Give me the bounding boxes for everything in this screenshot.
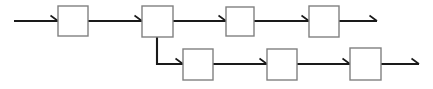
node-shape[interactable] bbox=[350, 48, 381, 80]
connector-node-7-to-output-bottom bbox=[381, 59, 419, 65]
node-shape[interactable] bbox=[183, 49, 213, 80]
process-node-3[interactable] bbox=[226, 7, 254, 36]
connector-node-5-to-node-6 bbox=[213, 59, 267, 65]
process-node-1[interactable] bbox=[58, 6, 88, 36]
node-shape[interactable] bbox=[226, 7, 254, 36]
connector-elbow-line bbox=[157, 37, 183, 64]
node-shape[interactable] bbox=[142, 6, 173, 37]
connector-node-6-to-node-7 bbox=[297, 59, 350, 65]
flowchart-canvas bbox=[0, 0, 433, 89]
process-node-7[interactable] bbox=[350, 48, 381, 80]
process-node-4[interactable] bbox=[309, 6, 339, 37]
node-shape[interactable] bbox=[309, 6, 339, 37]
node-shape[interactable] bbox=[58, 6, 88, 36]
connector-node-2-to-node-3 bbox=[173, 16, 226, 22]
connector-node-1-to-node-2 bbox=[88, 16, 142, 22]
connector-input-to-node-1 bbox=[14, 16, 58, 22]
connector-node-2-to-node-5-branch bbox=[157, 37, 183, 64]
flowchart-diagram bbox=[0, 0, 433, 89]
process-node-5[interactable] bbox=[183, 49, 213, 80]
connector-node-4-to-output-top bbox=[339, 16, 377, 22]
process-node-2[interactable] bbox=[142, 6, 173, 37]
connector-node-3-to-node-4 bbox=[254, 16, 309, 22]
node-shape[interactable] bbox=[267, 49, 297, 80]
process-node-6[interactable] bbox=[267, 49, 297, 80]
